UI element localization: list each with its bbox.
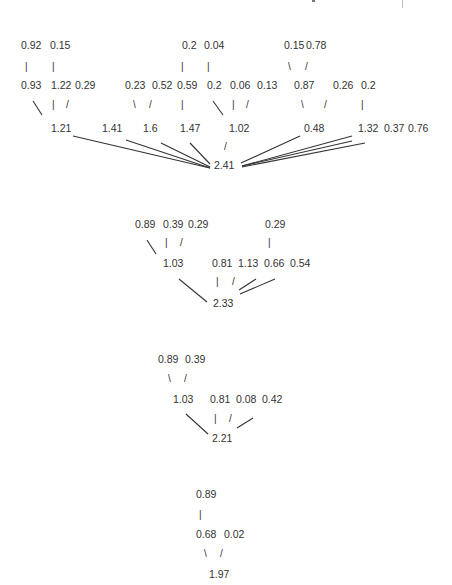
tree-edge-glyph: |: [216, 276, 219, 288]
tree-edge-line: [190, 143, 210, 164]
tree-node-value: 0.76: [408, 122, 428, 134]
tree-node-value: 0.39: [163, 218, 183, 230]
tree-node-value: 0.59: [177, 79, 197, 91]
tree-node-value: 1.03: [163, 257, 183, 269]
tree-node-value: 1.03: [173, 393, 193, 405]
tree-edge-line: [186, 414, 208, 434]
tree-node-value: 0.93: [21, 79, 41, 91]
tree-node-value: 0.23: [125, 79, 145, 91]
tree-node-value: 1.22: [51, 79, 71, 91]
tree-edge-glyph: |: [232, 99, 235, 111]
tree-node-value: 1.32: [358, 122, 378, 134]
tree-edge-glyph: |: [52, 61, 55, 73]
tree-edge-line: [242, 141, 352, 166]
tree-edge-line: [237, 418, 253, 428]
tree-edge-glyph: \: [168, 373, 171, 385]
tree-node-value: 0.89: [196, 488, 216, 500]
tree-edge-line: [73, 136, 210, 168]
tree-node-value: 0.2: [182, 39, 197, 51]
tree-edge-glyph: |: [268, 237, 271, 249]
tree-node-value: 0.87: [294, 79, 314, 91]
tree-edge-line: [33, 101, 42, 115]
tree-edge-glyph: /: [184, 373, 187, 385]
tree-edge-line: [213, 101, 223, 115]
tree-node-value: 1.21: [51, 122, 71, 134]
tree-edge-glyph: /: [180, 237, 183, 249]
tree-edge-glyph: |: [165, 237, 168, 249]
tree-edge-glyph: /: [220, 548, 223, 560]
tree-edge-line: [239, 279, 256, 290]
tree-edge-glyph: |: [361, 99, 364, 111]
tree-edge-line: [241, 136, 300, 163]
tree-edge-glyph: |: [199, 509, 202, 521]
tree-node-value: 0.54: [290, 257, 310, 269]
tree-edge-glyph: \: [301, 99, 304, 111]
tree-node-value: 2.41: [214, 159, 234, 171]
tree-node-value: 0.78: [306, 39, 326, 51]
tree-node-value: 0.29: [265, 218, 285, 230]
tree-node-value: 0.66: [264, 257, 284, 269]
tree-node-value: 0.26: [333, 79, 353, 91]
tree-edge-glyph: /: [224, 141, 227, 153]
tree-edge-line: [147, 240, 156, 254]
tree-node-value: 0.52: [152, 79, 172, 91]
tree-edge-glyph: /: [149, 99, 152, 111]
tree-edge-line: [179, 279, 207, 302]
top-artifact-dot: [312, 0, 315, 2]
tree-edge-glyph: |: [214, 413, 217, 425]
tree-node-value: 1.02: [229, 122, 249, 134]
tree-node-value: 1.6: [143, 122, 158, 134]
tree-node-value: 0.48: [304, 122, 324, 134]
tree-edge-line: [161, 143, 210, 167]
tree-node-value: 0.42: [262, 393, 282, 405]
tree-edge-glyph: /: [246, 99, 249, 111]
tree-node-value: 0.13: [257, 79, 277, 91]
tree-edge-glyph: \: [204, 548, 207, 560]
tree-node-value: 1.47: [180, 122, 200, 134]
top-artifact-bar: [402, 0, 403, 8]
tree-node-value: 2.21: [212, 432, 232, 444]
tree-node-value: 0.29: [75, 79, 95, 91]
tree-node-value: 0.89: [158, 353, 178, 365]
tree-edge-glyph: |: [207, 61, 210, 73]
tree-edge-glyph: /: [324, 99, 327, 111]
tree-node-value: 0.81: [210, 393, 230, 405]
tree-edge-glyph: /: [232, 276, 235, 288]
tree-node-value: 2.33: [213, 297, 233, 309]
tree-node-value: 0.89: [135, 218, 155, 230]
tree-node-value: 0.39: [185, 353, 205, 365]
tree-node-value: 1.41: [102, 122, 122, 134]
tree-edge-line: [242, 143, 365, 167]
tree-node-value: 0.04: [204, 39, 224, 51]
tree-edge-line: [242, 136, 352, 166]
tree-edge-glyph: \: [133, 99, 136, 111]
tree-node-value: 0.15: [50, 39, 70, 51]
tree-edge-glyph: \: [288, 61, 291, 73]
tree-node-value: 0.92: [21, 39, 41, 51]
tree-node-value: 0.29: [188, 218, 208, 230]
tree-node-value: 0.2: [361, 79, 376, 91]
tree-edge-glyph: /: [66, 99, 69, 111]
tree-node-value: 0.2: [207, 79, 222, 91]
tree-node-value: 1.97: [209, 568, 229, 580]
tree-edge-glyph: |: [181, 99, 184, 111]
tree-node-value: 0.06: [230, 79, 250, 91]
tree-node-value: 1.13: [238, 257, 258, 269]
tree-edge-glyph: |: [181, 61, 184, 73]
diagram-canvas: 0.920.150.20.040.150.780.931.220.290.230…: [0, 0, 452, 585]
tree-edge-glyph: |: [25, 61, 28, 73]
tree-edge-glyph: /: [305, 61, 308, 73]
tree-edge-line: [240, 279, 275, 294]
tree-node-value: 0.08: [236, 393, 256, 405]
tree-node-value: 0.15: [284, 39, 304, 51]
tree-edge-line: [126, 140, 210, 168]
tree-edge-glyph: |: [52, 99, 55, 111]
tree-node-value: 0.37: [384, 122, 404, 134]
tree-node-value: 0.81: [212, 257, 232, 269]
tree-node-value: 0.02: [224, 528, 244, 540]
tree-edge-glyph: /: [229, 413, 232, 425]
tree-node-value: 0.68: [196, 528, 216, 540]
